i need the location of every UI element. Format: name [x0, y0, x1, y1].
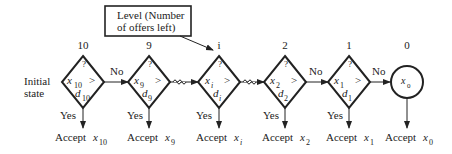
var-x: x [299, 131, 305, 143]
level-label: i [217, 39, 220, 51]
var-x: x [269, 74, 275, 86]
comparison: > [291, 74, 297, 86]
decision-node-i: i ? x i > d i [198, 39, 240, 108]
x-subscript: 0 [407, 82, 411, 90]
accept-label: Accept [55, 131, 86, 143]
yes-label: Yes [263, 109, 279, 121]
decision-node-2: 2 ? x 2 > d 2 [264, 39, 306, 108]
x-subscript: 0 [429, 138, 433, 147]
x-subscript: 2 [306, 138, 310, 147]
x-subscript: 10 [99, 138, 107, 147]
var-x: x [363, 131, 369, 143]
comparison: > [224, 74, 230, 86]
level-label: 0 [404, 39, 410, 51]
accept-label: Accept [326, 131, 357, 143]
yes-label: Yes [127, 109, 143, 121]
var-x: x [422, 131, 428, 143]
accept-branch-2: Yes Accept x 2 [262, 108, 310, 147]
accept-label: Accept [196, 131, 227, 143]
d-subscript: 10 [82, 94, 90, 103]
break-symbol-icon [173, 80, 186, 84]
yes-label: Yes [196, 109, 212, 121]
var-x: x [66, 74, 72, 86]
level-label: 9 [146, 39, 152, 51]
initial-state-label-2: state [24, 87, 44, 99]
no-label: No [309, 65, 323, 77]
accept-branch-0: Accept x 0 [385, 98, 433, 147]
question-mark: ? [218, 59, 222, 69]
d-subscript: 1 [348, 94, 352, 103]
comparison: > [155, 74, 161, 86]
level-label: 1 [346, 39, 352, 51]
d-subscript: 2 [284, 94, 288, 103]
comparison: > [89, 74, 95, 86]
decision-node-9: 9 ? x 9 > d 9 [128, 39, 170, 108]
level-label: 2 [282, 39, 288, 51]
var-d: d [75, 87, 81, 99]
comparison: > [355, 74, 361, 86]
no-label: No [372, 65, 386, 77]
var-x: x [92, 131, 98, 143]
decision-node-10: 10 ? x 10 > d 10 [62, 39, 104, 108]
question-mark: ? [284, 59, 288, 69]
question-mark: ? [348, 59, 352, 69]
var-x: x [164, 131, 170, 143]
var-x: x [133, 74, 139, 86]
question-mark: ? [82, 59, 86, 69]
var-x: x [333, 74, 339, 86]
accept-branch-i: Yes Accept x i [196, 108, 242, 147]
decision-node-1: 1 ? x 1 > d 1 [328, 39, 370, 108]
decision-flow-diagram: Level (Number of offers left) Initial st… [0, 0, 452, 154]
x-subscript: i [240, 138, 242, 147]
x-subscript: 1 [370, 138, 374, 147]
level-callout: Level (Number of offers left) [105, 6, 213, 50]
var-x: x [233, 131, 239, 143]
break-symbol-icon [243, 80, 256, 84]
terminal-node-0: 0 x 0 [391, 39, 423, 98]
x-subscript: 9 [171, 138, 175, 147]
initial-state-label-1: Initial [24, 75, 50, 87]
accept-branch-1: Yes Accept x 1 [326, 108, 374, 147]
accept-label: Accept [127, 131, 158, 143]
accept-branch-9: Yes Accept x 9 [127, 108, 175, 147]
no-label: No [110, 65, 124, 77]
accept-label: Accept [262, 131, 293, 143]
accept-branch-10: Yes Accept x 10 [55, 108, 107, 147]
question-mark: ? [148, 59, 152, 69]
callout-line-2: of offers left) [117, 21, 176, 34]
yes-label: Yes [327, 109, 343, 121]
level-label: 10 [78, 39, 90, 51]
d-subscript: i [219, 94, 221, 103]
var-x: x [204, 74, 210, 86]
var-x: x [400, 75, 406, 86]
yes-label: Yes [60, 109, 76, 121]
callout-arrow [180, 36, 213, 50]
d-subscript: 9 [148, 94, 152, 103]
accept-label: Accept [385, 131, 416, 143]
